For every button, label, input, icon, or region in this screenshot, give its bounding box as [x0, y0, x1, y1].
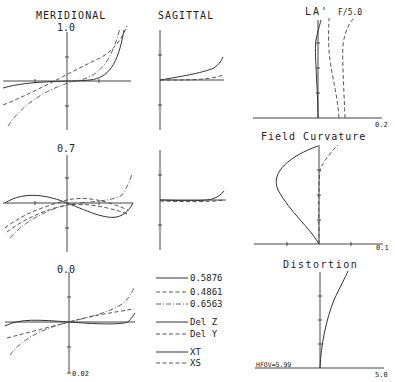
legend-label: Del Z [190, 317, 218, 327]
meridional-fan-0-7: 0.7 [3, 143, 133, 252]
sagittal-title: SAGITTAL [158, 10, 214, 21]
fnumber-label: F/5.0 [338, 8, 362, 17]
legend-label: 0.4861 [190, 287, 223, 297]
field-curvature-title: Field Curvature [261, 131, 366, 142]
la-scale: 0.2 [375, 121, 388, 129]
legend: 0.5876 0.4861 0.6563 Del Z Del Y XT XS [156, 273, 223, 368]
legend-label: XS [190, 358, 201, 368]
legend-label: Del Y [190, 329, 218, 339]
distortion-plot: Distortion HFOV=5.99 5.0 [255, 259, 388, 379]
legend-label: 0.5876 [190, 273, 223, 283]
meridional-title: MERIDIONAL [36, 10, 106, 21]
field-label-0-7: 0.7 [57, 143, 75, 154]
distortion-scale: 5.0 [375, 371, 388, 379]
aberration-plots: MERIDIONAL SAGITTAL 1.0 0.7 [0, 0, 395, 382]
meridional-fan-0-0: 0.0 0.02 [5, 264, 135, 378]
sagittal-fan-1-0 [158, 30, 224, 130]
legend-label: XT [190, 347, 201, 357]
field-label-0-0: 0.0 [57, 264, 75, 275]
field-label-1-0: 1.0 [57, 22, 75, 33]
hfov-label: HFOV=5.99 [256, 361, 291, 369]
legend-label: 0.6563 [190, 299, 223, 309]
field-curvature-plot: Field Curvature 0.1 [254, 131, 389, 252]
distortion-title: Distortion [283, 259, 358, 270]
sagittal-fan-0-7 [158, 150, 226, 250]
la-title: LA' [305, 6, 329, 17]
field-curvature-scale: 0.1 [376, 244, 389, 252]
longitudinal-aberration-plot: LA' F/5.0 0.2 [253, 6, 388, 129]
meridional-fan-1-0: 1.0 [3, 22, 131, 130]
ray-fan-scale: 0.02 [72, 370, 89, 378]
